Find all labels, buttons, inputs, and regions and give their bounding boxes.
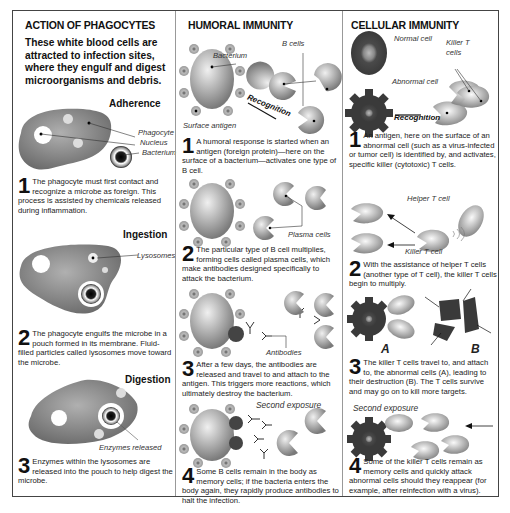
diagram-frame: ACTION OF PHAGOCYTES These white blood c… bbox=[12, 10, 499, 497]
label-antibodies: Antibodies bbox=[266, 348, 301, 357]
humoral-step-4: 4 Some B cells remain in the body as mem… bbox=[182, 467, 340, 505]
step-number: 1 bbox=[182, 137, 194, 155]
phagocytes-intro: These white blood cells are attracted to… bbox=[25, 37, 173, 87]
cellular-step-3: 3 The killer T cells travel to, and atta… bbox=[349, 358, 497, 396]
step-number: 2 bbox=[182, 245, 194, 263]
label-killer-t-cell: Killer T cell bbox=[405, 247, 442, 256]
cellular-step-4: 4 Some of the killer T cells remain as m… bbox=[349, 457, 497, 495]
label-surface-antigen: Surface antigen bbox=[183, 121, 236, 130]
step-number: 4 bbox=[182, 467, 194, 485]
step-number: 4 bbox=[349, 457, 361, 475]
label-a: A bbox=[381, 342, 390, 356]
normal-cell-icon bbox=[351, 31, 387, 75]
label-lysosomes: Lysosomes bbox=[137, 251, 175, 260]
step-number: 3 bbox=[18, 457, 30, 475]
label-plasma-cells: Plasma cells bbox=[288, 230, 331, 239]
label-killer-t-cells: Killer T cells bbox=[446, 38, 476, 58]
phagocyte-step-2: 2 The phagocyte engulfs the microbe in a… bbox=[18, 329, 173, 367]
label-normal-cell: Normal cell bbox=[394, 34, 432, 43]
humoral-title: HUMORAL IMMUNITY bbox=[188, 19, 293, 31]
humoral-step-2: 2 The particular type of B cell multipli… bbox=[182, 245, 340, 283]
phagocyte-step-1: 1 The phagocyte must first contact and r… bbox=[18, 177, 173, 215]
label-b: B bbox=[471, 342, 480, 356]
label-enzymes-released: Enzymes released bbox=[99, 443, 161, 452]
cellular-step-2: 2 With the assistance of helper T cells … bbox=[349, 260, 497, 289]
label-abnormal-cell: Abnormal cell bbox=[392, 77, 438, 86]
label-bacterium: Bacterium bbox=[213, 51, 247, 60]
b-cell-icons bbox=[269, 53, 342, 134]
phagocytes-title: ACTION OF PHAGOCYTES bbox=[25, 19, 155, 31]
label-phagocyte: Phagocyte bbox=[138, 128, 174, 137]
phagocytes-column: ACTION OF PHAGOCYTES These white blood c… bbox=[13, 11, 175, 496]
step-number: 2 bbox=[18, 329, 30, 347]
humoral-column: HUMORAL IMMUNITY bbox=[175, 11, 343, 496]
cellular-step-1: 1 An antigen, here on the surface of an … bbox=[349, 131, 497, 169]
label-nucleus: Nucleus bbox=[140, 138, 167, 147]
attacked-cell-a-icon bbox=[347, 297, 387, 341]
step-number: 3 bbox=[182, 360, 194, 378]
ingestion-illustration bbox=[13, 236, 175, 321]
step-number: 1 bbox=[18, 177, 30, 195]
cellular-column: CELLULAR IMMUNITY bbox=[342, 11, 499, 496]
label-bacterium: Bacterium bbox=[142, 148, 176, 157]
step-number: 3 bbox=[349, 358, 361, 376]
label-b-cells: B cells bbox=[282, 39, 304, 48]
antibodies-illustration bbox=[176, 286, 343, 356]
t-cell-attack-illustration bbox=[343, 289, 499, 349]
step-number: 2 bbox=[349, 260, 361, 278]
humoral-step-3: 3 After a few days, the antibodies are r… bbox=[182, 360, 340, 398]
humoral-step-1: 1 A humoral response is started when an … bbox=[182, 137, 340, 175]
digestion-illustration bbox=[13, 376, 175, 446]
label-recognition: Recognition bbox=[394, 113, 440, 122]
step-number: 1 bbox=[349, 131, 361, 149]
phagocyte-step-3: 3 Enzymes within the lysosomes are relea… bbox=[18, 457, 173, 486]
second-exposure-illustration bbox=[176, 401, 343, 466]
